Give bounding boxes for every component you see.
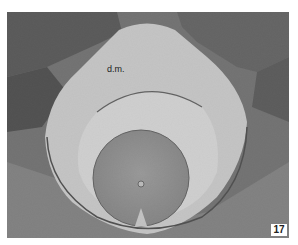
figure-number: 17: [271, 224, 287, 236]
micrograph-image: [7, 12, 289, 238]
micrograph-figure: d.m. 17: [7, 12, 289, 238]
dura-mater-label: d.m.: [107, 64, 125, 74]
